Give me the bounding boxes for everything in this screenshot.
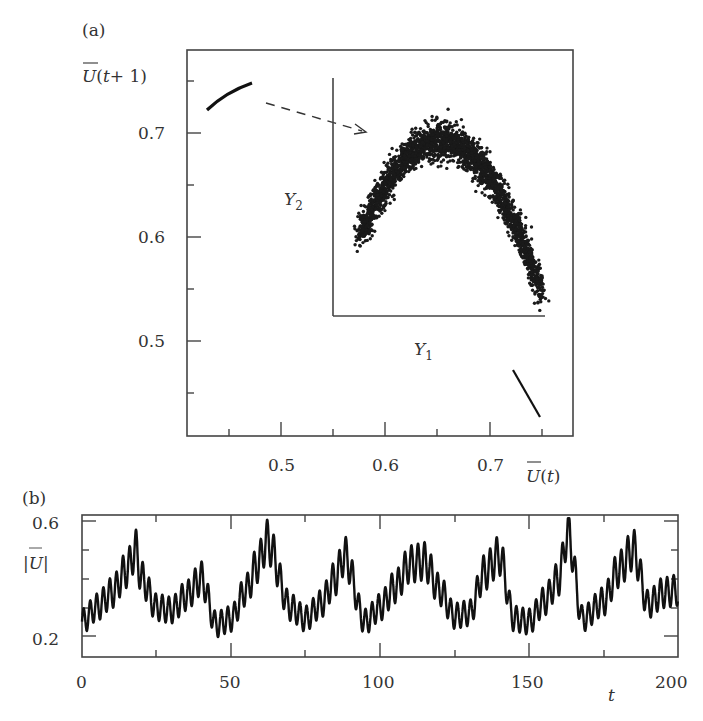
panel-a-xtick-0.7: 0.7 (477, 455, 504, 475)
panel-b-xticks (156, 515, 604, 657)
panel-a-ytick-0.6: 0.6 (138, 227, 165, 247)
panel-a-xtick-0.5: 0.5 (268, 455, 295, 475)
panel-a-yticks (187, 81, 201, 393)
panel-b-xtick-100: 100 (362, 672, 394, 692)
panel-b-ytick-0.6: 0.6 (32, 513, 59, 533)
panel-a-xtick-0.6: 0.6 (372, 455, 399, 475)
lower-right-branch (513, 370, 540, 417)
panel-a-xticks (229, 422, 542, 436)
svg-text:U(t+ 1): U(t+ 1) (82, 66, 147, 86)
upper-left-branch (207, 83, 252, 110)
dashed-arrow (266, 103, 366, 134)
panel-b-label: (b) (22, 488, 46, 508)
panel-a-ytick-0.5: 0.5 (138, 331, 165, 351)
panel-a-plot-frame (187, 50, 573, 436)
svg-text:U(t): U(t) (526, 466, 560, 486)
time-series-line (82, 518, 678, 637)
figure-canvas: (a) U(t+ 1) 0.7 0.6 0.5 0.5 0.6 0.7 U(t) (0, 0, 703, 721)
panel-b-xtick-200: 200 (655, 672, 687, 692)
panel-b-ytick-0.2: 0.2 (32, 629, 59, 649)
panel-a-label: (a) (82, 20, 105, 40)
panel-b-xlabel: t (608, 685, 615, 705)
inset-ylabel: Y2 (284, 189, 303, 213)
panel-b-xtick-150: 150 (511, 672, 543, 692)
panel-b-xtick-50: 50 (219, 672, 241, 692)
inset-axes (333, 78, 545, 316)
panel-a-xlabel: U(t) (526, 462, 560, 486)
inset-scatter-points (353, 108, 551, 313)
panel-a-ylabel: U(t+ 1) (82, 63, 147, 86)
svg-text:|U|: |U| (23, 553, 49, 573)
panel-b-xtick-0: 0 (76, 672, 87, 692)
inset-xlabel: Y1 (414, 339, 433, 363)
panel-b-ylabel: |U| (23, 548, 49, 573)
panel-b-plot-frame (82, 515, 678, 657)
panel-a-ytick-0.7: 0.7 (138, 123, 165, 143)
